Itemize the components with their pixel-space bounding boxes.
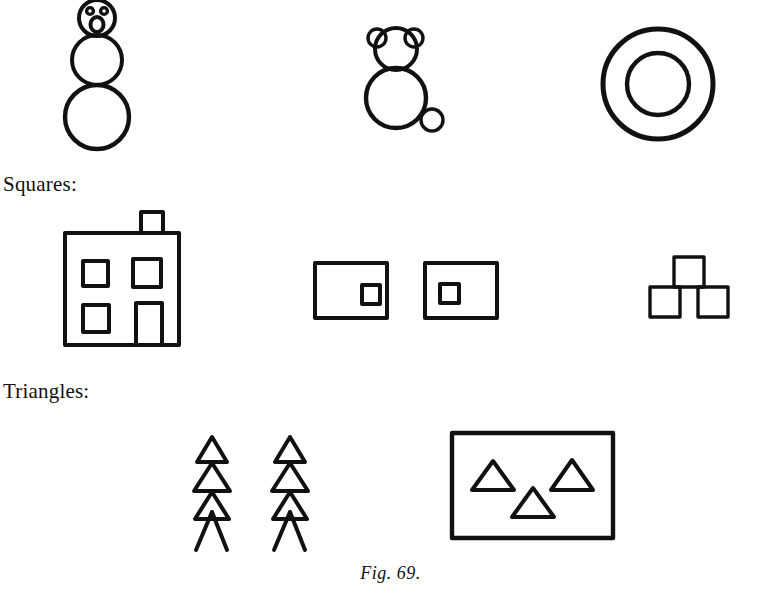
pyramid-square-top [674,257,704,287]
house-window-top-left [83,261,108,286]
drawing-bear [352,22,482,157]
pyramid-square-bottom-right [698,287,728,317]
snowman-mouth-oval [91,17,104,32]
tree-left-triangle-top [197,437,227,462]
drawing-fir-trees [183,432,333,557]
drawing-framed-triangles [447,428,627,548]
drawing-snowman [55,0,195,158]
snowman-eye-right-icon [101,8,108,15]
snowman-torso-circle [72,35,122,85]
figure-caption: Fig. 69. [0,563,781,584]
fir-tree-left [194,437,230,550]
bear-tail-circle [421,109,443,131]
figure-page: Squares: Triangles: [0,0,781,597]
house-door [136,303,162,345]
drawing-rectangle-pair [312,258,507,328]
house-window-bottom-left [83,305,109,332]
bear-body-circle [366,68,426,128]
rect-right-inner-square [440,284,459,303]
snowman-eye-left-icon [87,8,94,15]
rect-left-inner-square [362,285,380,304]
tree-left-triangle-middle [194,463,230,491]
tree-right-triangle-middle [272,463,308,491]
house-window-top-right [133,259,161,287]
framed-triangle-upper-left [472,461,514,490]
tree-right-triangle-top [275,437,305,462]
drawing-three-squares-pyramid [648,252,738,337]
ring-inner-circle [627,53,689,115]
framed-triangle-lower-center [512,488,554,517]
fir-tree-right [272,437,308,550]
rect-left-outer [315,263,387,318]
pyramid-square-bottom-left [650,287,680,317]
row-label-triangles: Triangles: [3,381,89,402]
drawing-house [52,205,212,360]
snowman-base-circle [65,85,129,149]
drawing-concentric-rings [598,24,723,149]
bear-head-circle [375,28,417,70]
ring-outer-circle [603,29,713,139]
house-chimney [141,212,163,233]
framed-triangle-upper-right [551,460,593,490]
row-label-squares: Squares: [3,174,77,195]
